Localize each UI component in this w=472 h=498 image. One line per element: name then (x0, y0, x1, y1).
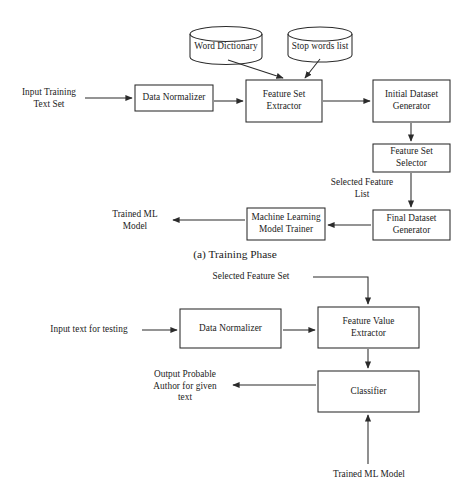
input-text-for-testing-label: Input text for testing (38, 324, 140, 336)
caption-training-phase: (a) Training Phase (165, 248, 305, 260)
figure-canvas: Word Dictionary Stop words list Input Tr… (0, 0, 472, 498)
initial-dataset-generator: Initial Dataset Generator (373, 80, 450, 122)
feature-value-extractor: Feature Value Extractor (318, 307, 419, 348)
data-normalizer: Data Normalizer (135, 85, 213, 111)
trained-ml-model-input-label: Trained ML Model (324, 469, 414, 481)
feature-set-extractor: Feature Set Extractor (246, 80, 322, 122)
stop-words-list: Stop words list (288, 38, 352, 56)
feature-set-selector: Feature Set Selector (373, 144, 450, 172)
selected-feature-set-label: Selected Feature Set (199, 271, 303, 283)
selected-feature-list-label: Selected Feature List (328, 177, 396, 200)
input-training-text-set-label: Input Training Text Set (10, 87, 88, 110)
arrow-selected-feature-set-to-feature-value-extractor (313, 277, 368, 304)
arrow-word-dictionary-to-feature-set-extractor (228, 60, 283, 78)
data-normalizer-test: Data Normalizer (180, 309, 281, 348)
output-probable-author-label: Output Probable Author for given text (141, 369, 229, 404)
word-dictionary: Word Dictionary (190, 38, 262, 56)
trained-ml-model-output-label: Trained ML Model (101, 209, 169, 232)
classifier: Classifier (318, 371, 419, 412)
machine-learning-model-trainer: Machine Learning Model Trainer (247, 208, 325, 240)
final-dataset-generator: Final Dataset Generator (373, 210, 450, 240)
